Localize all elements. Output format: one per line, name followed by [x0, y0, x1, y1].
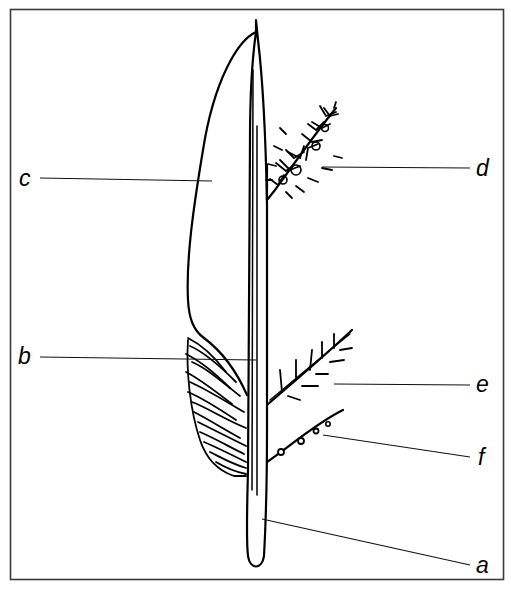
label-e: e: [476, 371, 489, 397]
leader-e: [334, 384, 470, 385]
leader-d: [322, 167, 470, 168]
diagram-figure: c b d e f a: [0, 0, 511, 595]
label-d: d: [476, 155, 490, 181]
label-b: b: [18, 343, 31, 369]
label-f: f: [478, 444, 487, 470]
branched-tuft: [266, 102, 342, 200]
leader-c: [40, 178, 212, 181]
leader-f: [323, 435, 470, 457]
label-c: c: [19, 165, 31, 191]
barbed-branch: [267, 330, 352, 405]
label-a: a: [476, 552, 489, 578]
leaf-blade: [188, 32, 256, 338]
leader-a: [262, 519, 470, 565]
